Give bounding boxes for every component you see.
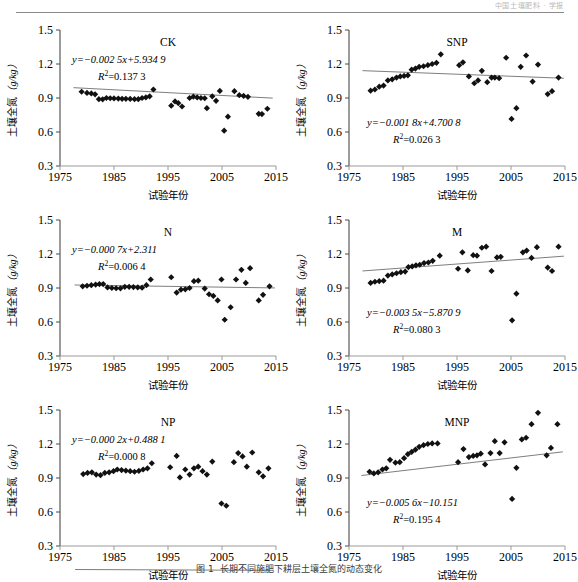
y-axis-tick-label: 1.2 (327, 247, 342, 261)
y-axis-tick-label: 1.5 (38, 213, 53, 227)
x-axis-tick-label: 1985 (391, 360, 415, 374)
data-point-marker (484, 79, 490, 85)
data-point-marker (204, 105, 210, 111)
data-point-marker (460, 446, 466, 452)
data-point-marker (245, 94, 251, 100)
data-point-marker (474, 253, 480, 259)
y-axis-title-unit: （g/kg） (7, 439, 18, 476)
r-squared-mnp: R2=0.195 4 (392, 512, 441, 526)
chart-panel-np: 0.30.60.91.21.519751985199520052015土壤全氮（… (0, 398, 289, 582)
data-point-marker (455, 266, 461, 272)
data-point-marker (479, 68, 485, 74)
data-point-marker (209, 93, 215, 99)
x-axis-tick-label: 1975 (337, 360, 361, 374)
y-axis-title-unit: （g/kg） (296, 59, 307, 96)
data-point-marker (401, 455, 407, 461)
data-point-marker (204, 472, 210, 478)
r-squared-m: R2=0.080 3 (392, 322, 441, 336)
data-point-marker (389, 271, 395, 277)
y-axis-tick-label: 0.9 (327, 471, 342, 485)
data-point-marker (177, 474, 183, 480)
data-point-marker (518, 64, 524, 70)
x-axis-tick-label: 2015 (553, 360, 577, 374)
data-point-marker (106, 469, 112, 475)
data-point-marker (434, 440, 440, 446)
data-point-marker (393, 270, 399, 276)
data-point-marker (459, 249, 465, 255)
r-squared-n: R2=0.006 4 (97, 259, 146, 273)
trend-line-mnp (361, 452, 562, 476)
data-point-group (79, 86, 271, 133)
data-point-marker (260, 292, 266, 298)
r-squared-ck: R2=0.137 3 (97, 69, 146, 83)
y-axis-tick-label: 0.9 (327, 91, 342, 105)
x-axis-tick-label: 1995 (445, 170, 469, 184)
data-point-marker (549, 268, 555, 274)
data-point-marker (509, 496, 515, 502)
data-point-marker (513, 105, 519, 111)
y-axis-title: 土壤全氮（g/kg） (6, 249, 18, 326)
x-axis-title: 试验年份 (437, 379, 478, 391)
y-axis-tick-label: 0.6 (327, 505, 342, 519)
running-header: 中国土壤肥料 · 学报 (0, 0, 578, 18)
x-axis-tick-label: 2005 (499, 360, 523, 374)
data-point-marker (100, 281, 106, 287)
y-axis-title-cjk: 土壤全氮 (6, 477, 18, 517)
y-axis-tick-label: 1.2 (327, 437, 342, 451)
figure-caption: 图 1长期不同施肥下耕层土壤全氮的动态变化 (0, 562, 578, 575)
data-point-marker (530, 78, 536, 84)
data-point-marker (215, 297, 221, 303)
scatter-plot-mnp: 0.30.60.91.21.519751985199520052015土壤全氮（… (289, 398, 578, 582)
data-point-marker (368, 280, 374, 286)
x-axis-tick-label: 2005 (210, 170, 234, 184)
data-point-marker (387, 457, 393, 463)
data-point-marker (528, 421, 534, 427)
y-axis-title-cjk: 土壤全氮 (6, 97, 18, 137)
y-axis-tick-label: 0.6 (38, 315, 53, 329)
data-point-marker (144, 465, 150, 471)
y-axis-tick-label: 1.2 (38, 57, 53, 71)
data-point-marker (221, 128, 227, 134)
regression-equation-n: y=−0.000 7x+2.311 (71, 244, 157, 255)
data-point-marker (168, 103, 174, 109)
data-point-marker (545, 265, 551, 271)
y-axis-tick-label: 0.9 (38, 91, 53, 105)
data-point-marker (209, 458, 215, 464)
data-point-marker (168, 274, 174, 280)
y-axis-tick-label: 0.6 (38, 505, 53, 519)
regression-equation-mnp: y=−0.005 6x−10.151 (366, 497, 458, 508)
data-point-marker (535, 410, 541, 416)
data-point-marker (174, 453, 180, 459)
regression-equation-np: y=−0.000 2x+0.488 1 (71, 434, 166, 445)
scatter-plot-m: 0.30.60.91.21.519751985199520052015土壤全氮（… (289, 208, 578, 398)
series-title-n: N (164, 226, 173, 238)
data-point-marker (429, 440, 435, 446)
data-point-marker (429, 61, 435, 67)
figure-caption-text: 长期不同施肥下耕层土壤全氮的动态变化 (220, 564, 382, 574)
data-point-marker (199, 468, 205, 474)
y-axis-tick-label: 0.9 (38, 471, 53, 485)
x-axis-title: 试验年份 (148, 189, 189, 201)
data-point-marker (554, 421, 560, 427)
data-point-marker (402, 268, 408, 274)
x-axis-tick-label: 1995 (156, 360, 180, 374)
y-axis-tick-label: 0.9 (38, 281, 53, 295)
data-point-marker (487, 450, 493, 456)
y-axis-tick-label: 1.5 (38, 403, 53, 417)
data-point-marker (148, 276, 154, 282)
x-axis-title: 试验年份 (437, 189, 478, 201)
x-axis-tick-label: 2005 (499, 170, 523, 184)
chart-panel-m: 0.30.60.91.21.519751985199520052015土壤全氮（… (289, 208, 578, 398)
data-point-marker (488, 268, 494, 274)
y-axis-tick-label: 0.6 (38, 125, 53, 139)
series-title-mnp: MNP (445, 416, 470, 428)
data-point-marker (202, 95, 208, 101)
data-point-marker (420, 63, 426, 69)
data-point-marker (217, 88, 223, 94)
data-point-marker (380, 82, 386, 88)
data-point-group (80, 265, 273, 323)
y-axis-title-text: 土壤全氮（g/kg） (6, 439, 18, 516)
y-axis-tick-label: 0.6 (327, 315, 342, 329)
y-axis-title-unit: （g/kg） (296, 249, 307, 286)
y-axis-title-cjk: 土壤全氮 (295, 287, 307, 327)
